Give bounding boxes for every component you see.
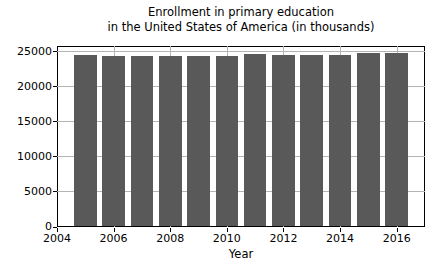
x-tick-label-2008: 2008 bbox=[148, 232, 192, 245]
figure: Enrollment in primary education in the U… bbox=[0, 0, 445, 275]
y-tick-label-20000: 20000 bbox=[0, 80, 52, 93]
x-tick-2004 bbox=[57, 228, 58, 232]
x-tick-label-2016: 2016 bbox=[375, 232, 419, 245]
y-tick-label-25000: 25000 bbox=[0, 45, 52, 58]
x-tick-2008 bbox=[170, 228, 171, 232]
chart-title-line1: Enrollment in primary education bbox=[148, 5, 334, 19]
y-tick-label-5000: 5000 bbox=[0, 185, 52, 198]
x-tick-label-2004: 2004 bbox=[35, 232, 79, 245]
chart-title-line2: in the United States of America (in thou… bbox=[108, 20, 375, 34]
x-tick-label-2010: 2010 bbox=[205, 232, 249, 245]
x-tick-2016 bbox=[397, 228, 398, 232]
x-tick-2006 bbox=[114, 228, 115, 232]
y-tick-label-15000: 15000 bbox=[0, 115, 52, 128]
y-tick-label-10000: 10000 bbox=[0, 150, 52, 163]
x-tick-2012 bbox=[283, 228, 284, 232]
x-tick-label-2006: 2006 bbox=[92, 232, 136, 245]
chart-title: Enrollment in primary education in the U… bbox=[37, 5, 445, 35]
x-tick-label-2014: 2014 bbox=[318, 232, 362, 245]
x-axis-label: Year bbox=[57, 247, 425, 261]
x-tick-2014 bbox=[340, 228, 341, 232]
y-tick-label-0: 0 bbox=[0, 220, 52, 233]
x-tick-2010 bbox=[227, 228, 228, 232]
plot-area bbox=[57, 46, 425, 227]
x-tick-label-2012: 2012 bbox=[261, 232, 305, 245]
